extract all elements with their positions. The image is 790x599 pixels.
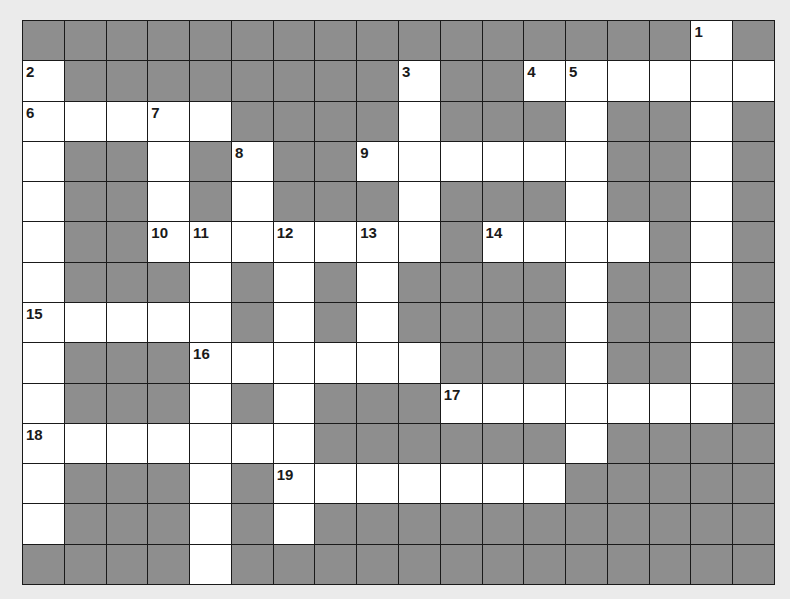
crossword-cell[interactable] xyxy=(65,424,106,463)
crossword-cell[interactable] xyxy=(190,545,231,584)
crossword-cell[interactable] xyxy=(357,263,398,302)
crossword-cell[interactable] xyxy=(23,384,64,423)
crossword-cell[interactable] xyxy=(65,303,106,342)
crossword-cell[interactable]: 6 xyxy=(23,102,64,141)
crossword-cell[interactable]: 3 xyxy=(399,61,440,100)
crossword-cell[interactable] xyxy=(107,303,148,342)
crossword-cell[interactable] xyxy=(23,504,64,543)
crossword-cell[interactable] xyxy=(23,263,64,302)
crossword-cell[interactable] xyxy=(399,182,440,221)
crossword-cell[interactable] xyxy=(148,182,189,221)
crossword-cell[interactable] xyxy=(23,464,64,503)
crossword-cell[interactable] xyxy=(441,464,482,503)
crossword-cell[interactable] xyxy=(232,222,273,261)
crossword-cell[interactable] xyxy=(483,464,524,503)
crossword-cell[interactable]: 18 xyxy=(23,424,64,463)
crossword-cell[interactable] xyxy=(399,343,440,382)
crossword-cell[interactable] xyxy=(524,142,565,181)
crossword-cell[interactable] xyxy=(148,424,189,463)
crossword-cell[interactable] xyxy=(691,263,732,302)
crossword-cell[interactable] xyxy=(399,102,440,141)
crossword-cell[interactable] xyxy=(274,343,315,382)
crossword-cell[interactable] xyxy=(566,384,607,423)
crossword-cell[interactable]: 15 xyxy=(23,303,64,342)
crossword-cell[interactable] xyxy=(691,222,732,261)
crossword-cell[interactable]: 10 xyxy=(148,222,189,261)
crossword-cell[interactable] xyxy=(315,464,356,503)
crossword-cell[interactable] xyxy=(566,102,607,141)
crossword-cell[interactable] xyxy=(566,424,607,463)
crossword-cell[interactable] xyxy=(190,464,231,503)
crossword-cell[interactable] xyxy=(399,142,440,181)
crossword-cell[interactable]: 17 xyxy=(441,384,482,423)
crossword-cell[interactable] xyxy=(315,222,356,261)
crossword-cell[interactable] xyxy=(733,61,774,100)
crossword-cell[interactable] xyxy=(483,142,524,181)
crossword-cell[interactable]: 9 xyxy=(357,142,398,181)
crossword-cell[interactable] xyxy=(566,142,607,181)
crossword-cell[interactable] xyxy=(357,464,398,503)
crossword-cell[interactable]: 8 xyxy=(232,142,273,181)
crossword-cell[interactable]: 1 xyxy=(691,21,732,60)
crossword-cell[interactable] xyxy=(232,424,273,463)
crossword-cell[interactable] xyxy=(190,504,231,543)
crossword-cell[interactable] xyxy=(190,384,231,423)
crossword-cell[interactable] xyxy=(190,102,231,141)
crossword-cell[interactable] xyxy=(566,263,607,302)
crossword-cell[interactable] xyxy=(399,222,440,261)
crossword-cell[interactable] xyxy=(23,182,64,221)
crossword-cell[interactable] xyxy=(650,61,691,100)
crossword-cell[interactable]: 12 xyxy=(274,222,315,261)
crossword-cell[interactable] xyxy=(566,303,607,342)
crossword-cell[interactable] xyxy=(691,182,732,221)
crossword-cell[interactable] xyxy=(274,504,315,543)
crossword-cell[interactable] xyxy=(524,464,565,503)
crossword-cell[interactable] xyxy=(274,263,315,302)
crossword-cell[interactable] xyxy=(107,102,148,141)
crossword-cell[interactable]: 13 xyxy=(357,222,398,261)
crossword-cell[interactable] xyxy=(23,343,64,382)
crossword-cell[interactable] xyxy=(483,384,524,423)
crossword-cell[interactable] xyxy=(608,222,649,261)
crossword-cell[interactable] xyxy=(23,222,64,261)
crossword-cell[interactable]: 14 xyxy=(483,222,524,261)
crossword-cell[interactable] xyxy=(566,343,607,382)
crossword-cell[interactable] xyxy=(691,343,732,382)
crossword-cell[interactable] xyxy=(274,424,315,463)
crossword-cell[interactable] xyxy=(148,303,189,342)
crossword-cell[interactable] xyxy=(190,303,231,342)
crossword-cell[interactable] xyxy=(691,384,732,423)
crossword-cell[interactable] xyxy=(650,384,691,423)
crossword-cell[interactable] xyxy=(691,102,732,141)
crossword-cell[interactable]: 7 xyxy=(148,102,189,141)
crossword-cell[interactable] xyxy=(232,343,273,382)
crossword-cell[interactable] xyxy=(691,303,732,342)
crossword-cell[interactable] xyxy=(232,182,273,221)
crossword-cell[interactable] xyxy=(608,61,649,100)
crossword-cell[interactable]: 4 xyxy=(524,61,565,100)
crossword-cell[interactable] xyxy=(107,424,148,463)
crossword-cell[interactable] xyxy=(315,343,356,382)
crossword-cell[interactable] xyxy=(441,142,482,181)
crossword-cell[interactable] xyxy=(148,142,189,181)
crossword-cell[interactable]: 2 xyxy=(23,61,64,100)
crossword-cell[interactable] xyxy=(524,222,565,261)
crossword-cell[interactable] xyxy=(190,424,231,463)
crossword-cell[interactable] xyxy=(274,303,315,342)
crossword-cell[interactable]: 19 xyxy=(274,464,315,503)
crossword-cell[interactable] xyxy=(65,102,106,141)
crossword-cell[interactable] xyxy=(608,384,649,423)
crossword-cell[interactable] xyxy=(566,182,607,221)
crossword-cell[interactable]: 5 xyxy=(566,61,607,100)
crossword-cell[interactable] xyxy=(274,384,315,423)
crossword-cell[interactable] xyxy=(357,303,398,342)
crossword-cell[interactable] xyxy=(23,142,64,181)
crossword-cell[interactable] xyxy=(566,222,607,261)
crossword-cell[interactable]: 16 xyxy=(190,343,231,382)
crossword-cell[interactable]: 11 xyxy=(190,222,231,261)
crossword-cell[interactable] xyxy=(190,263,231,302)
crossword-cell[interactable] xyxy=(691,142,732,181)
crossword-cell[interactable] xyxy=(691,61,732,100)
crossword-cell[interactable] xyxy=(399,464,440,503)
crossword-cell[interactable] xyxy=(357,343,398,382)
